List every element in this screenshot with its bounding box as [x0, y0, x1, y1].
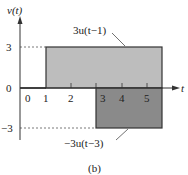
y-tick-0: 0	[6, 82, 12, 94]
series2-label: −3u(t−3)	[64, 137, 104, 150]
x-axis-arrow-icon	[172, 86, 180, 91]
x-tick-5: 5	[144, 92, 150, 104]
x-tick-1: 1	[43, 92, 49, 104]
figure-caption: (b)	[88, 162, 101, 175]
y-axis-label: v(t)	[7, 4, 23, 17]
y-tick-3: 3	[6, 41, 12, 53]
x-tick-2: 2	[68, 92, 74, 104]
x-tick-4: 4	[119, 92, 125, 104]
area-neg3u-t-3	[96, 88, 162, 128]
y-tick-neg3: −3	[1, 122, 13, 134]
step-function-diagram: v(t) t 3u(t−1) −3u(t−3) 3 0 −3 0 1 2 3 4…	[0, 0, 188, 175]
callout-line-series2	[116, 129, 128, 140]
x-axis-label: t	[181, 82, 185, 94]
y-axis-arrow-icon	[18, 16, 23, 24]
x-tick-3: 3	[100, 92, 106, 104]
x-tick-0: 0	[25, 92, 31, 104]
series1-label: 3u(t−1)	[73, 24, 106, 37]
callout-line-series1	[112, 33, 125, 46]
area-3u-t-1	[46, 47, 162, 88]
